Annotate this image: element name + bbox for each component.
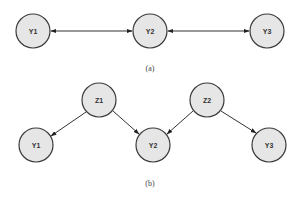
caption-b: (b) [145, 179, 155, 188]
node-label: Y1 [29, 28, 38, 35]
edge-b-z1-y1 [51, 112, 86, 136]
node-label: Y2 [149, 142, 158, 149]
node-label: Z1 [95, 97, 103, 104]
causal-diagram-canvas: Y1 Y2 Y3 (a) Z1 Z2 Y1 [0, 0, 301, 197]
node-a-y1: Y1 [16, 14, 50, 48]
node-b-z2: Z2 [190, 83, 224, 117]
node-label: Z2 [203, 97, 211, 104]
caption-a: (a) [146, 64, 155, 73]
node-a-y3: Y3 [250, 14, 284, 48]
edge-b-z2-y3 [221, 111, 256, 133]
node-b-y3: Y3 [252, 128, 286, 162]
node-b-z1: Z1 [82, 83, 116, 117]
node-b-y2: Y2 [136, 128, 170, 162]
node-label: Y3 [263, 28, 272, 35]
node-a-y2: Y2 [133, 14, 167, 48]
node-b-y1: Y1 [19, 128, 53, 162]
diagram-b-nodes: Z1 Z2 Y1 Y2 Y3 [19, 83, 286, 162]
edge-b-z2-y2 [167, 111, 193, 134]
node-label: Y1 [32, 142, 41, 149]
edge-b-z1-y2 [113, 111, 139, 134]
node-label: Y2 [146, 28, 155, 35]
node-label: Y3 [265, 142, 274, 149]
